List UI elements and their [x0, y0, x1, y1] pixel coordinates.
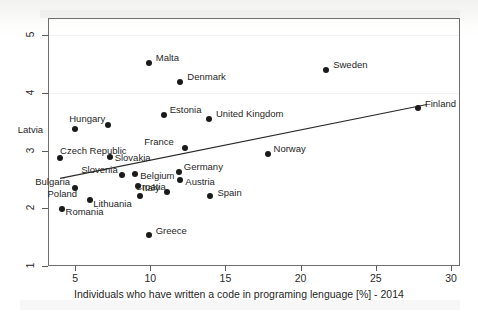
data-point-label: Belgium [140, 171, 174, 181]
gridline [49, 35, 459, 36]
data-point [206, 116, 212, 122]
data-point-label: Bulgaria [35, 177, 70, 187]
y-tick-mark [42, 208, 48, 209]
x-tick-label: 25 [361, 272, 391, 284]
data-point [132, 171, 138, 177]
y-tick-mark [42, 266, 48, 267]
x-tick-label: 10 [135, 272, 165, 284]
data-point-label: Latvia [18, 125, 43, 135]
x-axis-title: Individuals who have written a code in p… [0, 288, 478, 300]
data-point [59, 206, 65, 212]
data-point [265, 151, 271, 157]
data-point [87, 197, 93, 203]
data-point [161, 112, 167, 118]
data-point-label: Finland [425, 99, 456, 109]
scatter-plot-figure: 12345 51015202530 MaltaDenmarkSwedenFinl… [0, 0, 478, 319]
y-tick-label: 2 [25, 200, 36, 216]
x-tick-label: 20 [286, 272, 316, 284]
gridline [49, 93, 459, 94]
data-point-label: United Kingdom [216, 109, 284, 119]
y-tick-label: 4 [25, 84, 36, 100]
data-point-label: Slovakia [115, 153, 151, 163]
data-point-label: Hungary [69, 114, 105, 124]
x-tick-label: 5 [60, 272, 90, 284]
data-point-label: Romania [66, 207, 104, 217]
data-point [107, 154, 113, 160]
data-point-label: Poland [48, 189, 78, 199]
data-point [137, 193, 143, 199]
y-tick-label: 5 [25, 27, 36, 43]
data-point [146, 60, 152, 66]
x-tick-mark [451, 266, 452, 271]
data-point-label: Malta [156, 53, 179, 63]
x-tick-label: 30 [436, 272, 466, 284]
data-point-label: Denmark [187, 72, 226, 82]
data-point-label: Austria [185, 177, 215, 187]
y-tick-label: 1 [25, 258, 36, 274]
data-point-label: Norway [274, 144, 306, 154]
scan-artifact-top [40, 10, 460, 18]
data-point-label: Germany [184, 162, 223, 172]
data-point-label: Croatia [135, 182, 166, 192]
y-tick-label: 3 [25, 142, 36, 158]
x-tick-mark [376, 266, 377, 271]
data-point-label: Slovenia [81, 165, 117, 175]
data-point [415, 105, 421, 111]
y-tick-mark [42, 93, 48, 94]
x-tick-label: 15 [210, 272, 240, 284]
y-tick-mark [42, 35, 48, 36]
y-tick-mark [42, 151, 48, 152]
data-point-label: Sweden [333, 60, 367, 70]
data-point-label: France [144, 137, 174, 147]
x-tick-mark [301, 266, 302, 271]
data-point-label: Estonia [170, 105, 202, 115]
x-tick-mark [225, 266, 226, 271]
plot-area-frame [48, 18, 460, 266]
x-tick-mark [150, 266, 151, 271]
scan-artifact-bottom [20, 300, 460, 310]
data-point [176, 169, 182, 175]
data-point [182, 145, 188, 151]
data-point-label: Greece [156, 226, 187, 236]
x-tick-mark [75, 266, 76, 271]
data-point-label: Spain [217, 188, 241, 198]
